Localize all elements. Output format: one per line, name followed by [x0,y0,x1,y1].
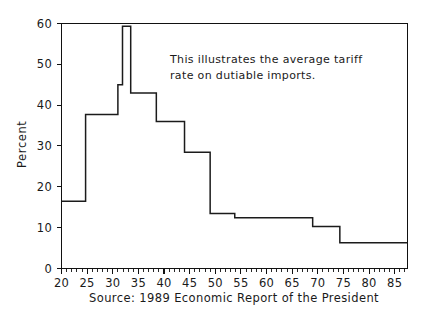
chart-annotation: This illustrates the average tariff rate… [169,53,363,82]
chart-canvas: 0 10 20 30 40 50 60 Percent 202530354045… [0,0,429,321]
y-tick-label: 40 [37,98,52,112]
y-tick-label: 10 [37,221,52,235]
x-tick-label: 35 [131,276,146,290]
x-tick-label: 20 [54,276,69,290]
y-tick-label: 50 [37,57,52,71]
x-tick-label: 65 [285,276,300,290]
y-axis-tick-labels: 0 10 20 30 40 50 60 [37,17,52,276]
source-caption: Source: 1989 Economic Report of the Pres… [89,291,379,305]
x-tick-label: 80 [361,276,376,290]
x-tick-label: 25 [80,276,95,290]
y-tick-label: 60 [37,17,52,31]
y-axis-title-group: Percent [15,121,29,168]
x-tick-label: 70 [310,276,325,290]
annotation-line-2: rate on dutiable imports. [170,69,316,82]
y-tick-label: 0 [44,262,52,276]
y-axis-title: Percent [15,121,29,168]
x-tick-label: 40 [156,276,171,290]
x-axis-ticks [62,269,405,275]
x-tick-label: 85 [387,276,402,290]
x-tick-label: 55 [233,276,248,290]
x-tick-label: 60 [259,276,274,290]
x-axis-tick-labels: 2025303540455055606570758085 [54,276,402,290]
x-tick-label: 50 [208,276,223,290]
y-tick-label: 30 [37,139,52,153]
x-tick-label: 30 [105,276,120,290]
annotation-line-1: This illustrates the average tariff [169,53,363,66]
source-caption-group: Source: 1989 Economic Report of the Pres… [89,291,379,305]
x-tick-label: 75 [336,276,351,290]
tariff-rate-chart-figure: 0 10 20 30 40 50 60 Percent 202530354045… [0,0,429,321]
y-tick-label: 20 [37,180,52,194]
x-tick-label: 45 [182,276,197,290]
